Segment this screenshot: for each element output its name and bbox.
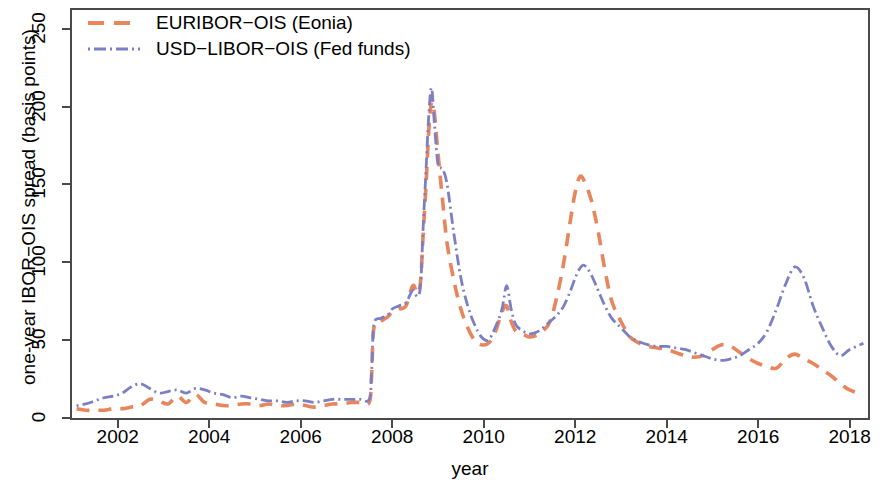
series-line-usd-libor-ois <box>77 88 864 406</box>
x-tick-mark <box>208 420 210 428</box>
x-tick-label: 2006 <box>271 426 331 448</box>
legend-swatch-usdlibor <box>86 47 142 51</box>
chart-legend: EURIBOR−OIS (Eonia) USD−LIBOR−OIS (Fed f… <box>86 10 411 62</box>
x-tick-mark <box>757 420 759 428</box>
legend-swatch-euribor <box>86 21 142 25</box>
x-tick-mark <box>300 420 302 428</box>
x-tick-label: 2018 <box>820 426 880 448</box>
x-tick-mark <box>666 420 668 428</box>
x-tick-label: 2010 <box>454 426 514 448</box>
x-tick-mark <box>483 420 485 428</box>
x-tick-label: 2016 <box>728 426 788 448</box>
x-tick-mark <box>391 420 393 428</box>
x-tick-label: 2012 <box>545 426 605 448</box>
x-tick-label: 2004 <box>179 426 239 448</box>
x-tick-label: 2008 <box>362 426 422 448</box>
x-tick-label: 2014 <box>637 426 697 448</box>
x-axis-title: year <box>70 458 870 480</box>
legend-item-usdlibor: USD−LIBOR−OIS (Fed funds) <box>86 36 411 62</box>
plot-area <box>70 8 870 420</box>
x-tick-label: 2002 <box>88 426 148 448</box>
x-tick-mark <box>117 420 119 428</box>
legend-item-euribor: EURIBOR−OIS (Eonia) <box>86 10 411 36</box>
series-line-euribor-ois <box>77 101 864 410</box>
x-tick-mark <box>849 420 851 428</box>
chart-figure: one-year IBOR−OIS spread (basis points) … <box>0 0 892 492</box>
legend-label-usdlibor: USD−LIBOR−OIS (Fed funds) <box>156 38 411 60</box>
x-tick-mark <box>574 420 576 428</box>
legend-label-euribor: EURIBOR−OIS (Eonia) <box>156 12 353 34</box>
